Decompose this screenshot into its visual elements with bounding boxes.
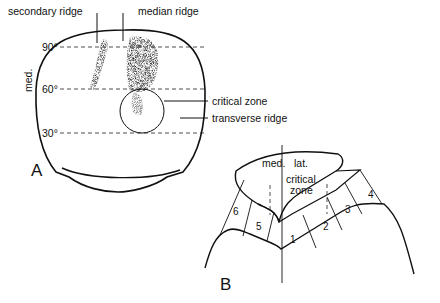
panel-a: 90° 60° 30° med. secondary ridge median … <box>8 5 287 192</box>
critical-zone-label: critical zone <box>212 95 268 107</box>
median-ridge-stipple <box>127 37 159 115</box>
zone-1-label: 1 <box>290 234 296 245</box>
panel-b: med. lat. critical zone 1 2 3 4 5 6 B <box>205 145 414 294</box>
lateral-label: lat. <box>294 157 308 169</box>
med-axis-label: med. <box>22 69 34 92</box>
zone-6-label: 6 <box>233 206 239 217</box>
angle-60-label: 60° <box>42 83 58 95</box>
angle-90-label: 90° <box>42 41 58 53</box>
critical-zone-line2: zone <box>290 184 313 196</box>
panel-a-letter: A <box>31 161 43 180</box>
zone-5-label: 5 <box>256 221 262 232</box>
median-ridge-label: median ridge <box>138 5 199 17</box>
panel-b-letter: B <box>220 275 231 294</box>
zone-1-5-divider <box>267 212 274 241</box>
secondary-ridge-label: secondary ridge <box>8 5 83 17</box>
transverse-ridge-label: transverse ridge <box>212 112 287 124</box>
figure: 90° 60° 30° med. secondary ridge median … <box>0 0 440 303</box>
zone-4-label: 4 <box>368 189 374 200</box>
zone-2-3-divider <box>327 197 342 230</box>
zone-3-label: 3 <box>345 204 351 215</box>
panel-a-rim <box>62 168 180 178</box>
zone-6-edge <box>220 180 244 235</box>
zone-2-label: 2 <box>323 221 329 232</box>
angle-30-label: 30° <box>42 127 58 139</box>
zone-1-2-divider <box>303 215 316 248</box>
zone-5-6-divider <box>243 200 252 236</box>
medial-label: med. <box>262 157 285 169</box>
panel-b-surface <box>235 152 342 222</box>
